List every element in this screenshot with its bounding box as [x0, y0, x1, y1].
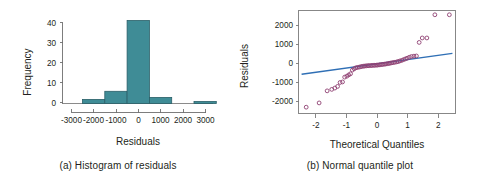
histogram-x-axis	[72, 109, 206, 113]
histogram-bar	[105, 91, 127, 103]
quantile-x-tick: -1	[343, 121, 351, 130]
histogram-y-axis-title: Frequency	[22, 48, 33, 95]
panel-b-caption: (b) Normal quantile plot	[236, 160, 484, 171]
histogram-x-tick: 0	[136, 116, 141, 125]
histogram-bar	[149, 97, 171, 103]
quantile-x-tick: 2	[436, 121, 441, 130]
quantile-x-tick-labels: -2 -1 0 1 2	[312, 121, 441, 130]
panel-histogram-of-residuals: Frequency 40 30 20 10 0	[0, 0, 236, 190]
histogram-x-tick: -1000	[106, 116, 127, 125]
histogram-x-tick: 3000	[196, 116, 215, 125]
quantile-plot-frame	[299, 11, 456, 114]
quantile-x-tick: 0	[375, 121, 380, 130]
histogram-x-tick-labels: -3000 -2000 -1000 0 1000 2000 3000	[61, 116, 215, 125]
histogram-x-axis-title: Residuals	[116, 136, 160, 147]
quantile-x-axis-ticks	[316, 114, 438, 118]
quantile-y-tick: -1000	[272, 78, 293, 87]
histogram-y-tick: 20	[47, 59, 57, 68]
residual-diagnostics-figure: Frequency 40 30 20 10 0	[0, 0, 484, 190]
quantile-y-tick: -2000	[272, 97, 293, 106]
quantile-x-tick: 1	[405, 121, 410, 130]
histogram-bars	[83, 21, 217, 104]
histogram-y-tick: 30	[47, 39, 57, 48]
histogram-bar	[83, 99, 105, 103]
histogram-y-tick: 10	[47, 79, 57, 88]
quantile-y-axis-ticks	[296, 25, 299, 101]
histogram-y-tick: 0	[51, 99, 56, 108]
quantile-y-axis-title: Residuals	[239, 44, 250, 88]
histogram-y-axis	[60, 23, 63, 104]
quantile-plot: Residuals 2000 1000 0 -1000 -2000	[236, 0, 484, 160]
quantile-x-tick: -2	[312, 121, 320, 130]
histogram-x-tick: 1000	[151, 116, 170, 125]
quantile-y-tick: 1000	[275, 40, 294, 49]
quantile-x-axis-title: Theoretical Quantiles	[330, 139, 425, 150]
histogram-y-tick: 40	[47, 19, 57, 28]
histogram-x-tick: 2000	[174, 116, 193, 125]
quantile-y-tick: 0	[288, 59, 293, 68]
histogram-x-tick: -3000	[61, 116, 82, 125]
panel-a-caption: (a) Histogram of residuals	[0, 160, 236, 171]
histogram-plot: Frequency 40 30 20 10 0	[0, 0, 236, 160]
panel-normal-quantile-plot: Residuals 2000 1000 0 -1000 -2000	[236, 0, 484, 190]
histogram-bar	[194, 102, 216, 104]
quantile-y-tick: 2000	[275, 21, 294, 30]
histogram-bar	[127, 21, 149, 104]
histogram-y-tick-labels: 40 30 20 10 0	[47, 19, 57, 108]
quantile-y-tick-labels: 2000 1000 0 -1000 -2000	[272, 21, 293, 106]
histogram-x-tick: -2000	[83, 116, 104, 125]
